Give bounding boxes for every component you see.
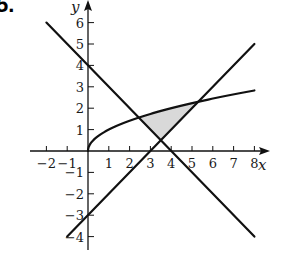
problem-number: 5. (0, 0, 14, 17)
x-tick-label: 1 (105, 156, 113, 171)
ticks: −2−112345678−4−3−2−1123456 (37, 16, 259, 245)
x-tick-label: 4 (167, 156, 175, 171)
y-tick-label: 6 (76, 16, 84, 31)
y-tick-label: 1 (76, 123, 84, 138)
y-tick-label: 5 (76, 37, 84, 52)
y-tick-label: −1 (65, 165, 84, 180)
graph: 5. −2−112345678−4−3−2−1123456 x y (0, 0, 283, 254)
x-tick-label: 3 (146, 156, 154, 171)
x-tick-label: −2 (37, 156, 56, 171)
y-tick-label: 3 (76, 80, 84, 95)
x-axis-label: x (258, 156, 267, 174)
x-tick-label: 7 (229, 156, 237, 171)
y-tick-label: −2 (65, 187, 84, 202)
y-axis-label: y (70, 0, 80, 16)
shaded-area (139, 102, 199, 141)
shaded-region (139, 102, 199, 141)
x-tick-label: 6 (209, 156, 217, 171)
y-tick-label: 2 (76, 101, 84, 116)
